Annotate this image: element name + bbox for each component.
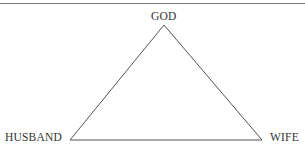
node-label-wife: WIFE — [270, 132, 299, 144]
node-label-husband: HUSBAND — [5, 132, 62, 144]
edge-god-wife — [164, 25, 262, 140]
node-label-god: GOD — [151, 11, 177, 23]
edge-god-husband — [70, 25, 164, 140]
